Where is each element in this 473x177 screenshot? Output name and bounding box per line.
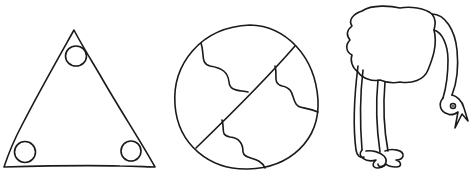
wavy-line-bottom <box>222 120 265 168</box>
circle-diagonal-line <box>196 46 295 148</box>
triangle-outline <box>4 30 155 167</box>
ostrich-right-foot <box>378 150 403 167</box>
wavy-line-top-left <box>201 43 248 92</box>
wavy-line-top-right <box>275 66 318 112</box>
ostrich-figure <box>347 6 468 168</box>
triangle-left-circle <box>15 142 36 163</box>
ostrich-left-leg <box>354 66 364 157</box>
ostrich-head <box>440 95 468 128</box>
ostrich-right-leg <box>377 80 388 152</box>
ostrich-neck-outer <box>432 14 458 95</box>
triangle-figure <box>4 30 155 167</box>
ostrich-pupil <box>452 105 454 107</box>
triangle-top-circle <box>66 46 87 66</box>
ostrich-body <box>347 6 436 83</box>
divided-circle-figure <box>175 25 318 169</box>
drawing-canvas <box>0 0 473 177</box>
ostrich-left-foot <box>360 150 386 168</box>
triangle-right-circle <box>121 141 141 161</box>
